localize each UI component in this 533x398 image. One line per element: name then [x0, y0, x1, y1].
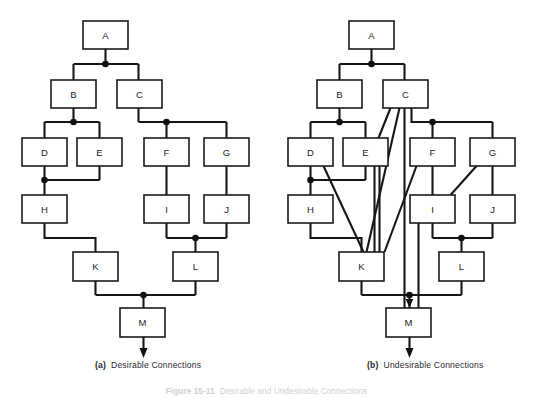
- node-c[interactable]: C: [383, 80, 428, 108]
- edge-c-to-k-diagonal: [367, 108, 400, 252]
- node-label: K: [358, 261, 365, 272]
- node-label: F: [164, 147, 170, 158]
- node-label: A: [102, 30, 109, 41]
- diagram-a-canvas: A B C D E: [0, 0, 267, 360]
- node-h[interactable]: H: [288, 195, 333, 223]
- node-m[interactable]: M: [120, 308, 165, 337]
- edge-c-to-e-diagonal: [379, 108, 391, 138]
- node-l[interactable]: L: [439, 252, 484, 281]
- node-f[interactable]: F: [144, 138, 189, 166]
- node-label: G: [223, 147, 230, 158]
- node-m[interactable]: M: [386, 308, 431, 337]
- m-input-arrow-icon: [406, 299, 413, 308]
- caption-text-a: Desirable Connections: [111, 360, 201, 370]
- edge-g-to-i-diagonal: [451, 166, 477, 195]
- node-g[interactable]: G: [470, 138, 515, 166]
- node-label: C: [402, 89, 409, 100]
- diagram-b-canvas: A B C D E: [266, 0, 533, 360]
- node-label: B: [70, 89, 76, 100]
- caption-undesirable: (b)Undesirable Connections: [367, 360, 483, 370]
- diagram-panel-undesirable: A B C D E: [266, 0, 533, 360]
- junction-dot: [336, 119, 343, 126]
- node-i[interactable]: I: [144, 195, 189, 223]
- node-label: M: [405, 317, 413, 328]
- node-b[interactable]: B: [317, 80, 362, 108]
- caption-text-b: Undesirable Connections: [384, 360, 484, 370]
- figure-root: A B C D E: [0, 0, 533, 398]
- node-k[interactable]: K: [339, 252, 384, 281]
- node-label: E: [362, 147, 368, 158]
- figure-number: Figure 15-11: [166, 386, 215, 396]
- node-a[interactable]: A: [349, 21, 394, 49]
- output-arrow-icon: [406, 348, 414, 358]
- caption-tag-a: (a): [95, 360, 106, 370]
- node-label: C: [136, 89, 143, 100]
- node-label: L: [193, 261, 198, 272]
- junction-dot: [102, 61, 109, 68]
- node-j[interactable]: J: [470, 195, 515, 223]
- node-i[interactable]: I: [410, 195, 455, 223]
- node-label: E: [96, 147, 102, 158]
- junction-dot: [163, 119, 170, 126]
- diagram-panel-desirable: A B C D E: [0, 0, 267, 360]
- node-label: H: [307, 204, 314, 215]
- node-label: D: [307, 147, 314, 158]
- node-k[interactable]: K: [73, 252, 118, 281]
- node-e[interactable]: E: [77, 138, 122, 166]
- node-label: D: [41, 147, 48, 158]
- junction-dot: [140, 292, 147, 299]
- node-label: J: [224, 204, 229, 215]
- edge-h-to-k: [45, 223, 96, 252]
- node-d[interactable]: D: [288, 138, 333, 166]
- figure-caption-text: Desirable and Undesirable Connections: [220, 386, 368, 396]
- node-d[interactable]: D: [22, 138, 67, 166]
- junction-dot: [192, 235, 199, 242]
- node-f[interactable]: F: [410, 138, 455, 166]
- figure-caption: Figure 15-11Desirable and Undesirable Co…: [0, 386, 533, 396]
- node-j[interactable]: J: [204, 195, 249, 223]
- node-label: B: [336, 89, 342, 100]
- caption-tag-b: (b): [367, 360, 379, 370]
- junction-dot: [406, 292, 413, 299]
- node-e[interactable]: E: [343, 138, 388, 166]
- node-c[interactable]: C: [117, 80, 162, 108]
- node-b[interactable]: B: [51, 80, 96, 108]
- node-l[interactable]: L: [173, 252, 218, 281]
- junction-dot: [368, 61, 375, 68]
- edge-c-to-fg-bus: [412, 108, 493, 122]
- node-label: H: [41, 204, 48, 215]
- node-label: K: [92, 261, 99, 272]
- node-label: G: [489, 147, 496, 158]
- edge-h-to-k: [311, 223, 362, 252]
- node-label: L: [459, 261, 464, 272]
- node-g[interactable]: G: [204, 138, 249, 166]
- node-label: F: [430, 147, 436, 158]
- junction-dot: [41, 177, 48, 184]
- node-label: J: [490, 204, 495, 215]
- output-arrow-icon: [140, 348, 148, 358]
- junction-dot: [307, 177, 314, 184]
- node-label: M: [139, 317, 147, 328]
- node-label: I: [431, 204, 434, 215]
- node-h[interactable]: H: [22, 195, 67, 223]
- junction-dot: [458, 235, 465, 242]
- node-label: I: [165, 204, 168, 215]
- junction-dot: [429, 119, 436, 126]
- node-label: A: [368, 30, 375, 41]
- panel-caption-row: (a)Desirable Connections (b)Undesirable …: [0, 360, 533, 380]
- node-a[interactable]: A: [83, 21, 128, 49]
- junction-dot: [70, 119, 77, 126]
- caption-desirable: (a)Desirable Connections: [95, 360, 201, 370]
